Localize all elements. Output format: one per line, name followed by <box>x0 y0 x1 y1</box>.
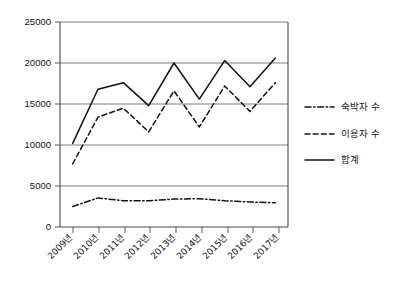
xtick-label-2017: 2017년 <box>251 232 280 261</box>
y-axis-tick-labels: 25000 20000 15000 10000 5000 0 <box>25 16 51 232</box>
xtick-label-2011: 2011년 <box>97 232 126 261</box>
x-axis-tick-labels: 2009년 2010년 2011년 2012년 2013년 2014년 2015… <box>45 232 280 261</box>
y-axis-gridlines <box>60 22 288 186</box>
xtick-label-2013: 2013년 <box>148 232 177 261</box>
series-line-hapgye <box>73 58 276 143</box>
ytick-label-15000: 15000 <box>25 98 51 109</box>
xtick-label-2014: 2014년 <box>174 232 203 261</box>
chart-canvas: 25000 20000 15000 10000 5000 0 2009년 201… <box>0 0 394 283</box>
legend-label-hapgye: 합계 <box>341 154 359 165</box>
xtick-label-2015: 2015년 <box>200 232 229 261</box>
ytick-label-10000: 10000 <box>25 139 51 150</box>
xtick-label-2012: 2012년 <box>122 232 151 261</box>
ytick-label-0: 0 <box>46 221 51 232</box>
xtick-label-2010: 2010년 <box>71 232 100 261</box>
ytick-label-20000: 20000 <box>25 57 51 68</box>
xtick-label-2016: 2016년 <box>225 232 254 261</box>
legend: 숙박자 수 이용자 수 합계 <box>305 101 380 165</box>
legend-label-sukbakja: 숙박자 수 <box>341 101 380 112</box>
ytick-label-25000: 25000 <box>25 16 51 27</box>
y-axis-ticks <box>55 22 60 227</box>
ytick-label-5000: 5000 <box>30 180 51 191</box>
legend-label-iyongja: 이용자 수 <box>341 128 380 139</box>
series-line-iyongja <box>73 83 276 164</box>
xtick-label-2009: 2009년 <box>45 232 74 261</box>
line-chart: 25000 20000 15000 10000 5000 0 2009년 201… <box>0 0 394 283</box>
x-axis-ticks <box>73 227 279 233</box>
data-series-group <box>73 58 276 206</box>
series-line-sukbakja <box>73 198 276 207</box>
